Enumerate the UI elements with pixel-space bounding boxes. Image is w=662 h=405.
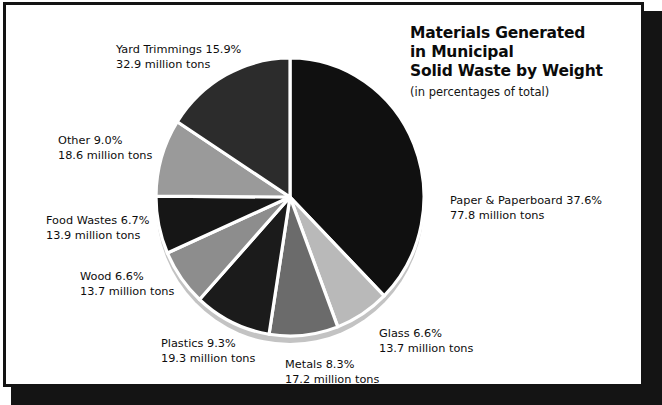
slice-label-food-wastes: Food Wastes 6.7% 13.9 million tons	[46, 213, 150, 243]
slice-label-other: Other 9.0% 18.6 million tons	[58, 133, 152, 163]
pie-chart-svg	[151, 49, 441, 359]
slice-label-wood-tons: 13.7 million tons	[80, 284, 174, 299]
slice-label-food-wastes-tons: 13.9 million tons	[46, 228, 150, 243]
slice-label-glass-percent: Glass 6.6%	[379, 327, 442, 340]
chart-title-line-2: in Municipal	[410, 43, 634, 62]
chart-title-line-1: Materials Generated	[410, 24, 634, 43]
slice-label-paper-paperboard-tons: 77.8 million tons	[450, 208, 602, 223]
slice-label-glass: Glass 6.6% 13.7 million tons	[379, 326, 473, 356]
slice-label-food-wastes-percent: Food Wastes 6.7%	[46, 214, 150, 227]
slice-label-other-tons: 18.6 million tons	[58, 148, 152, 163]
slice-label-metals-tons: 17.2 million tons	[285, 372, 379, 384]
slice-label-plastics-tons: 19.3 million tons	[161, 351, 255, 366]
pie-chart	[151, 49, 441, 359]
chart-subtitle: (in percentages of total)	[410, 84, 634, 100]
pie-slices	[156, 58, 424, 336]
slice-label-wood-percent: Wood 6.6%	[80, 270, 144, 283]
slice-label-glass-tons: 13.7 million tons	[379, 341, 473, 356]
slice-label-metals-percent: Metals 8.3%	[285, 358, 354, 371]
slice-label-paper-paperboard: Paper & Paperboard 37.6% 77.8 million to…	[450, 193, 602, 223]
card-content-area: Materials Generated in Municipal Solid W…	[6, 5, 641, 384]
slice-label-plastics-percent: Plastics 9.3%	[161, 337, 236, 350]
slice-label-metals: Metals 8.3% 17.2 million tons	[285, 357, 379, 384]
slice-label-yard-trimmings: Yard Trimmings 15.9% 32.9 million tons	[116, 42, 241, 72]
slice-label-paper-paperboard-percent: Paper & Paperboard 37.6%	[450, 194, 602, 207]
chart-figure: Materials Generated in Municipal Solid W…	[0, 0, 662, 405]
slice-label-wood: Wood 6.6% 13.7 million tons	[80, 269, 174, 299]
framed-card: Materials Generated in Municipal Solid W…	[3, 2, 644, 387]
slice-label-other-percent: Other 9.0%	[58, 134, 122, 147]
slice-label-yard-trimmings-tons: 32.9 million tons	[116, 57, 241, 72]
slice-label-plastics: Plastics 9.3% 19.3 million tons	[161, 336, 255, 366]
chart-title-block: Materials Generated in Municipal Solid W…	[410, 24, 634, 100]
chart-title-line-3: Solid Waste by Weight	[410, 62, 634, 81]
slice-label-yard-trimmings-percent: Yard Trimmings 15.9%	[116, 43, 241, 56]
